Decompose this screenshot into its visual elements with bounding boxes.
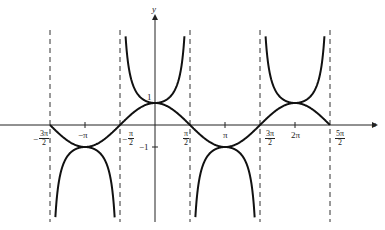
x-tick-label-pi2: π2	[183, 130, 189, 147]
x-tick-label-3pi2: 3π2	[265, 130, 275, 147]
frac-den: 2	[335, 139, 345, 147]
x-tick-label-neg-pi: −π	[78, 131, 88, 140]
y-axis-arrow-icon	[152, 14, 158, 20]
frac-den: 2	[183, 139, 189, 147]
sec-cos-graph: y x 1 −1 −π π 2π − 3π2 − π2 π2 3π2 5π2	[0, 0, 385, 230]
x-axis-label: x	[372, 120, 376, 129]
sec-branch	[195, 147, 254, 217]
y-tick-label-1: 1	[147, 93, 152, 102]
x-tick-label-pi: π	[223, 131, 228, 140]
y-axis-label: y	[152, 5, 156, 14]
sec-branch	[55, 147, 114, 217]
frac-den: 2	[128, 139, 134, 147]
frac-den: 2	[265, 139, 275, 147]
x-tick-label-5pi2: 5π2	[335, 130, 345, 147]
x-tick-label-2pi: 2π	[291, 131, 300, 140]
x-tick-sign-negpi2: −	[122, 135, 127, 144]
x-tick-sign-neg3pi2: −	[33, 135, 38, 144]
plot-area	[0, 0, 385, 230]
x-tick-label-negpi2: π2	[128, 130, 134, 147]
sec-branch	[266, 36, 325, 103]
frac-den: 2	[39, 139, 49, 147]
x-tick-label-neg3pi2: 3π2	[39, 130, 49, 147]
y-tick-label-neg1: −1	[139, 143, 149, 152]
